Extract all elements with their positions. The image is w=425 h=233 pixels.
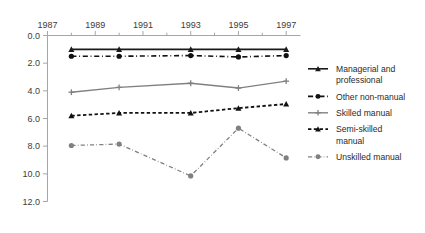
- series-4: [68, 101, 289, 118]
- legend-swatch-marker: [315, 110, 321, 116]
- legend-label: Unskilled manual: [336, 152, 402, 162]
- legend-item-2[interactable]: Other non-manual: [308, 92, 405, 102]
- legend-item-1[interactable]: Managerial andprofessional: [308, 64, 395, 85]
- series-1: [68, 46, 289, 52]
- legend-label-cont: professional: [336, 75, 382, 85]
- y-tick-label: 2.0: [27, 58, 40, 68]
- legend-item-4[interactable]: Semi-skilledmanual: [308, 124, 383, 145]
- series-2: [69, 53, 289, 60]
- y-tick-label: 10.0: [22, 169, 40, 179]
- x-tick-label: 1989: [85, 20, 105, 30]
- legend-swatch-marker: [316, 154, 321, 159]
- y-tick-label: 6.0: [27, 114, 40, 124]
- x-tick-label: 1993: [181, 20, 201, 30]
- x-tick-label: 1987: [37, 20, 57, 30]
- legend-label: Other non-manual: [336, 92, 405, 102]
- legend-label-cont: manual: [336, 136, 364, 146]
- chart-canvas: 198719891991199319951997 0.02.04.06.08.0…: [0, 0, 425, 233]
- x-axis: 198719891991199319951997: [37, 20, 300, 36]
- legend-item-3[interactable]: Skilled manual: [308, 108, 392, 118]
- y-tick-label: 4.0: [27, 86, 40, 96]
- chart-legend: Managerial andprofessionalOther non-manu…: [308, 64, 405, 162]
- y-tick-label: 8.0: [27, 141, 40, 151]
- legend-label: Managerial and: [336, 64, 395, 74]
- y-axis: 0.02.04.06.08.010.012.0: [22, 31, 47, 207]
- y-tick-label: 12.0: [22, 197, 40, 207]
- series-3: [68, 78, 289, 95]
- series-5: [69, 126, 289, 179]
- legend-swatch-marker: [316, 94, 321, 99]
- x-tick-label: 1995: [228, 20, 248, 30]
- y-tick-label: 0.0: [27, 31, 40, 41]
- line-chart: 198719891991199319951997 0.02.04.06.08.0…: [0, 0, 425, 233]
- x-tick-label: 1991: [133, 20, 153, 30]
- legend-label: Semi-skilled: [336, 124, 383, 134]
- series-layer: [68, 46, 289, 178]
- legend-label: Skilled manual: [336, 108, 392, 118]
- legend-item-5[interactable]: Unskilled manual: [308, 152, 402, 162]
- x-tick-label: 1997: [276, 20, 296, 30]
